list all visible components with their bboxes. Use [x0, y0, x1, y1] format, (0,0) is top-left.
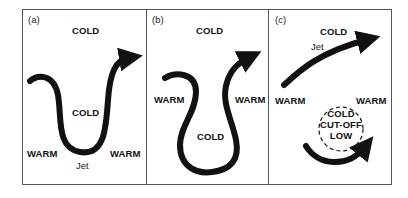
- label-jet-c: Jet: [311, 41, 324, 52]
- label-warm-right-a: WARM: [110, 148, 140, 159]
- label-cold-inner-a: COLD: [72, 107, 99, 118]
- panel-label-c: (c): [275, 14, 286, 25]
- label-cold-top-c: COLD: [320, 26, 347, 37]
- panel-label-b: (b): [152, 14, 164, 25]
- label-warm-left-b: WARM: [154, 94, 184, 105]
- label-cold-top-a: COLD: [72, 25, 99, 36]
- jet-stream-arrow-b: [165, 58, 248, 172]
- label-jet-a: Jet: [76, 160, 89, 171]
- jet-stream-arrow-c: [284, 40, 366, 85]
- label-cold-top-b: COLD: [196, 25, 223, 36]
- label-cutoff-line1: COLD: [316, 108, 366, 119]
- label-cutoff-line2: CUT-OFF: [316, 119, 366, 130]
- label-cold-inner-b: COLD: [197, 131, 224, 142]
- label-warm-left-a: WARM: [27, 148, 57, 159]
- label-warm-left-c: WARM: [275, 95, 305, 106]
- label-warm-right-b: WARM: [235, 94, 265, 105]
- cutoff-circulation-arrow: [306, 146, 364, 162]
- jet-stream-arrow-a: [30, 58, 128, 152]
- label-warm-right-c: WARM: [356, 95, 386, 106]
- panel-label-a: (a): [28, 14, 40, 25]
- label-cutoff-line3: LOW: [316, 130, 366, 141]
- label-cutoff-low: COLD CUT-OFF LOW: [316, 108, 366, 141]
